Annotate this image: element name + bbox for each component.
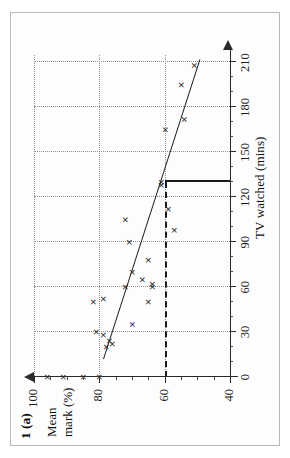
x-tick-label: 0 <box>238 357 253 397</box>
x-tick-minor <box>230 226 233 227</box>
gridline-vertical <box>34 196 230 197</box>
data-point: × <box>189 62 200 68</box>
x-tick <box>230 62 236 63</box>
y-tick <box>165 377 166 383</box>
x-tick <box>230 196 236 197</box>
data-point: × <box>162 206 173 212</box>
gridline-horizontal <box>34 55 35 377</box>
x-tick-minor <box>230 301 233 302</box>
data-point: × <box>127 269 138 275</box>
data-point: × <box>136 276 147 282</box>
x-tick-minor <box>230 256 233 257</box>
data-point: × <box>159 127 170 133</box>
y-tick-minor <box>181 377 182 380</box>
y-axis-title-line2: mark (%) <box>60 388 75 437</box>
x-tick-label: 30 <box>238 312 253 352</box>
line-of-best-fit <box>103 60 200 360</box>
x-tick-minor <box>230 361 233 362</box>
y-tick <box>34 377 35 383</box>
x-tick <box>230 106 236 107</box>
y-tick-minor <box>83 377 84 380</box>
y-tick-label: 40 <box>222 389 237 423</box>
x-tick-label: 60 <box>238 267 253 307</box>
y-tick-label: 100 <box>26 389 41 423</box>
data-point: × <box>97 296 108 302</box>
data-point: × <box>120 217 131 223</box>
x-tick-minor <box>230 346 233 347</box>
x-axis-arrow-icon <box>223 40 233 50</box>
data-point: × <box>91 329 102 335</box>
x-tick-minor <box>230 211 233 212</box>
y-tick-minor <box>67 377 68 380</box>
data-point: × <box>123 239 134 245</box>
gridline-vertical <box>34 62 230 63</box>
data-point: × <box>104 338 115 344</box>
x-tick-label: 120 <box>238 177 253 217</box>
y-tick-minor <box>50 377 51 380</box>
x-axis-title: TV watched (mins) <box>252 136 268 239</box>
x-tick-minor <box>230 136 233 137</box>
y-tick-label: 60 <box>157 389 172 423</box>
figure-frame: 1 (a) Mean mark (%) ××××××××××××××××××××… <box>10 12 280 446</box>
y-axis-title-line1: Mean <box>44 407 59 437</box>
rotated-chart-wrapper: 1 (a) Mean mark (%) ××××××××××××××××××××… <box>16 19 274 439</box>
y-axis-arrow-icon <box>24 372 34 382</box>
x-tick-minor <box>230 91 233 92</box>
y-tick-label: 80 <box>91 389 106 423</box>
y-tick-minor <box>132 377 133 380</box>
y-axis-line <box>34 376 238 377</box>
gridline-vertical <box>34 286 230 287</box>
gridline-vertical <box>34 106 230 107</box>
x-tick-label: 90 <box>238 222 253 262</box>
gridline-vertical <box>34 151 230 152</box>
plot-area: ××××××××××××××××××××××××××××× <box>34 55 230 377</box>
y-tick <box>230 377 231 383</box>
x-tick-minor <box>230 181 233 182</box>
data-point: × <box>179 116 190 122</box>
x-tick <box>230 331 236 332</box>
data-point: × <box>143 257 154 263</box>
x-tick-minor <box>230 76 233 77</box>
y-tick-minor <box>214 377 215 380</box>
y-tick <box>99 377 100 383</box>
x-tick-minor <box>230 166 233 167</box>
y-tick-minor <box>148 377 149 380</box>
x-tick <box>230 286 236 287</box>
prediction-line-vertical <box>165 180 230 182</box>
x-tick-label: 150 <box>238 132 253 172</box>
x-tick-label: 180 <box>238 87 253 127</box>
y-tick-minor <box>116 377 117 380</box>
data-point: × <box>120 284 131 290</box>
data-point: × <box>176 82 187 88</box>
x-tick <box>230 241 236 242</box>
y-tick-minor <box>197 377 198 380</box>
data-point: × <box>143 299 154 305</box>
x-tick <box>230 151 236 152</box>
gridline-vertical <box>34 331 230 332</box>
data-point: × <box>169 227 180 233</box>
x-tick-minor <box>230 271 233 272</box>
data-point: × <box>156 179 167 185</box>
x-tick-minor <box>230 316 233 317</box>
screenshot-canvas: 1 (a) Mean mark (%) ××××××××××××××××××××… <box>0 0 290 458</box>
x-tick-minor <box>230 121 233 122</box>
data-point: × <box>146 281 157 287</box>
x-tick-label: 210 <box>238 43 253 83</box>
data-point: × <box>127 321 138 327</box>
